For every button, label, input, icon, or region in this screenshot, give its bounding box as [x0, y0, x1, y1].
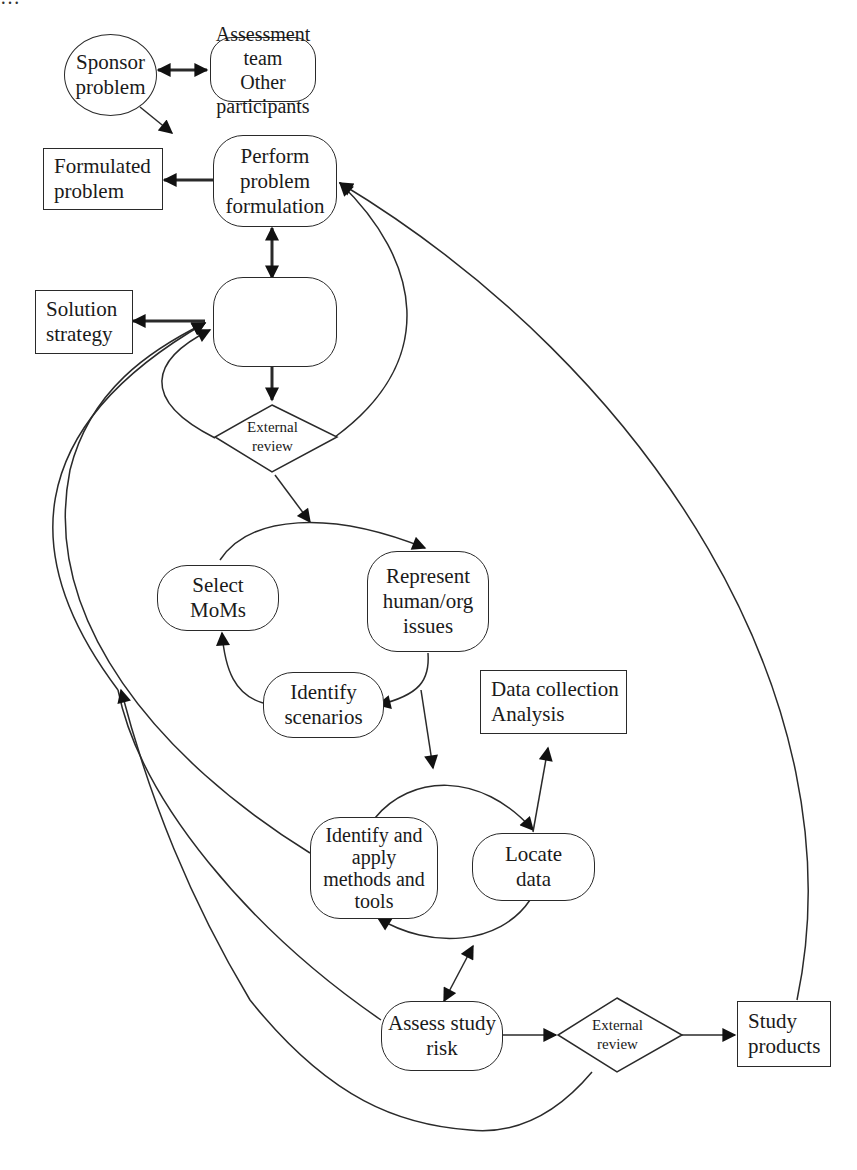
node-locate-data: Locate data	[472, 833, 595, 901]
edge-assess-specify	[53, 323, 205, 690]
node-identify-apply-methods-tools: Identify and apply methods and tools	[310, 817, 438, 919]
node-formulated-problem: Formulated problem	[43, 148, 163, 210]
node-specify-solution-strategy	[213, 277, 337, 367]
edge-sponsor-perform	[140, 107, 172, 133]
label-external-review-2: External review	[570, 1010, 665, 1060]
top-caption-cut: …	[0, 0, 857, 6]
node-identify-scenarios: Identify scenarios	[263, 672, 384, 738]
node-perform-problem-formulation: Perform problem formulation	[213, 135, 337, 227]
edge-review1-perform	[335, 183, 407, 437]
edge-methods-assess	[444, 946, 473, 1001]
node-sponsor-problem: Sponsor problem	[64, 34, 157, 116]
label-external-review-1: External review	[225, 412, 320, 462]
edge-represent-scenarios	[378, 653, 428, 705]
edge-review1-specify	[162, 330, 215, 438]
node-data-collection-analysis: Data collection Analysis	[480, 670, 627, 734]
edge-scenarios-moms	[222, 633, 263, 703]
node-select-moms: Select MoMs	[157, 565, 279, 631]
node-study-products: Study products	[737, 1001, 831, 1067]
edge-review1-loop	[275, 475, 310, 522]
node-represent-human-org-issues: Represent human/org issues	[367, 551, 489, 652]
node-assessment-team: Assessment team Other participants	[210, 37, 316, 102]
node-solution-strategy: Solution strategy	[35, 290, 133, 354]
edge-represent-methods-loop	[421, 690, 433, 768]
node-assess-study-risk: Assess study risk	[381, 1001, 503, 1071]
edge-locate-datacollection	[533, 748, 548, 832]
